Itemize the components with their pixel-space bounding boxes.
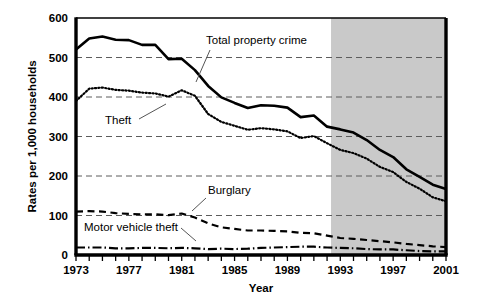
x-axis-tick-label: 2001 bbox=[433, 264, 459, 276]
y-axis-tick-label: 500 bbox=[49, 52, 68, 64]
burglary-label-text: Burglary bbox=[208, 184, 251, 196]
x-axis-tick-label: 1977 bbox=[116, 264, 142, 276]
y-axis-tick-label: 400 bbox=[49, 91, 68, 103]
total-property-crime-label-text: Total property crime bbox=[206, 34, 307, 46]
x-axis-tick-label: 1981 bbox=[169, 264, 195, 276]
line-chart: 0100200300400500600197319771981198519891… bbox=[0, 0, 482, 304]
x-axis-tick-label: 1989 bbox=[275, 264, 301, 276]
y-axis-tick-label: 0 bbox=[62, 249, 68, 261]
motor-vehicle-theft-label-text: Motor vehicle theft bbox=[84, 221, 179, 233]
x-axis-tick-label: 1993 bbox=[327, 264, 353, 276]
y-axis-title: Rates per 1,000 households bbox=[26, 60, 38, 212]
y-axis-tick-label: 200 bbox=[49, 170, 68, 182]
x-axis-tick-label: 1985 bbox=[222, 264, 248, 276]
y-axis-tick-label: 300 bbox=[49, 131, 68, 143]
x-axis-tick-label: 1973 bbox=[63, 264, 89, 276]
y-axis-tick-label: 600 bbox=[49, 12, 68, 24]
chart-container: 0100200300400500600197319771981198519891… bbox=[0, 0, 482, 304]
x-axis-title: Year bbox=[249, 282, 274, 294]
x-axis-tick-label: 1997 bbox=[380, 264, 406, 276]
y-axis-tick-label: 100 bbox=[49, 210, 68, 222]
theft-label-text: Theft bbox=[105, 114, 132, 126]
